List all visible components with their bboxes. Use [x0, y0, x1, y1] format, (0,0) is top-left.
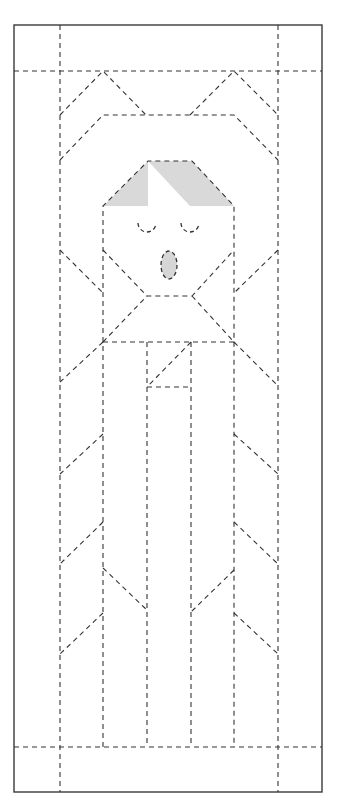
mouth-icon	[161, 251, 177, 279]
paper-background	[0, 0, 341, 803]
folding-diagram: Folding template - figure with face	[0, 0, 341, 803]
